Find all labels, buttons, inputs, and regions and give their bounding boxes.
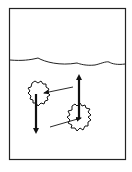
diagram-canvas (0, 0, 132, 172)
sinking-object (28, 81, 73, 131)
floating-object (50, 77, 91, 131)
water-surface-line (10, 58, 125, 65)
diagram-frame (10, 9, 126, 160)
irregular-blob-icon (28, 81, 50, 106)
